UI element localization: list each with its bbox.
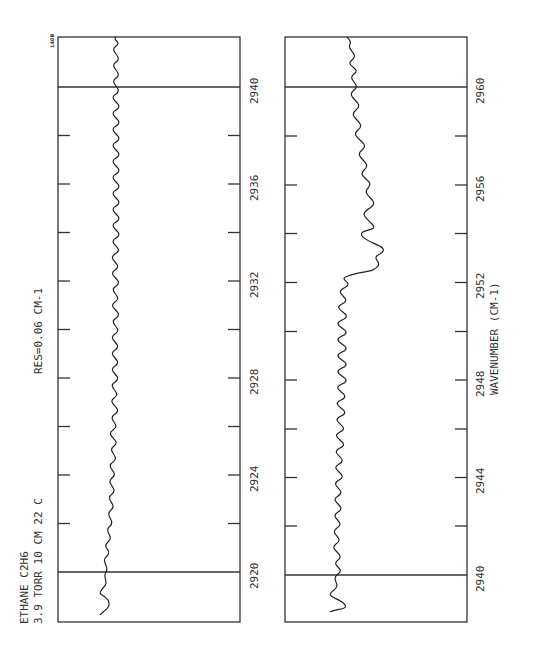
right-frame bbox=[285, 37, 467, 622]
svg-text:2944: 2944 bbox=[474, 467, 487, 494]
svg-text:2940: 2940 bbox=[248, 78, 261, 105]
sample-line-1: ETHANE C2H6 bbox=[18, 551, 31, 624]
left-spectrum-trace bbox=[100, 37, 119, 615]
svg-text:2940: 2940 bbox=[474, 566, 487, 593]
svg-text:2920: 2920 bbox=[248, 563, 261, 590]
figure-id: 140B bbox=[49, 34, 55, 48]
right-panel: 2940 2944 2948 2952 2956 2960 WAVENUMBER… bbox=[285, 37, 501, 622]
spectrum-figure: 140B ETHANE C2H6 3.9 TORR 10 CM 22 C RES… bbox=[0, 0, 555, 662]
svg-text:2948: 2948 bbox=[474, 371, 487, 398]
resolution-label: RES=0.06 CM-1 bbox=[32, 288, 45, 374]
svg-text:2960: 2960 bbox=[474, 78, 487, 105]
sample-line-2: 3.9 TORR 10 CM 22 C bbox=[32, 498, 45, 624]
svg-text:2952: 2952 bbox=[474, 273, 487, 300]
svg-text:2928: 2928 bbox=[248, 369, 261, 396]
right-ticks bbox=[285, 136, 467, 526]
left-panel: 140B ETHANE C2H6 3.9 TORR 10 CM 22 C RES… bbox=[18, 34, 261, 624]
left-tick-labels: 2920 2924 2928 2932 2936 2940 bbox=[248, 78, 261, 590]
svg-text:2956: 2956 bbox=[474, 176, 487, 203]
left-ticks bbox=[58, 136, 240, 524]
svg-text:2924: 2924 bbox=[248, 465, 261, 492]
x-axis-label: WAVENUMBER (CM-1) bbox=[488, 282, 501, 395]
right-spectrum-trace bbox=[330, 37, 383, 612]
svg-text:2936: 2936 bbox=[248, 175, 261, 202]
svg-text:2932: 2932 bbox=[248, 272, 261, 299]
right-tick-labels: 2940 2944 2948 2952 2956 2960 bbox=[474, 78, 487, 593]
left-frame bbox=[58, 37, 240, 622]
